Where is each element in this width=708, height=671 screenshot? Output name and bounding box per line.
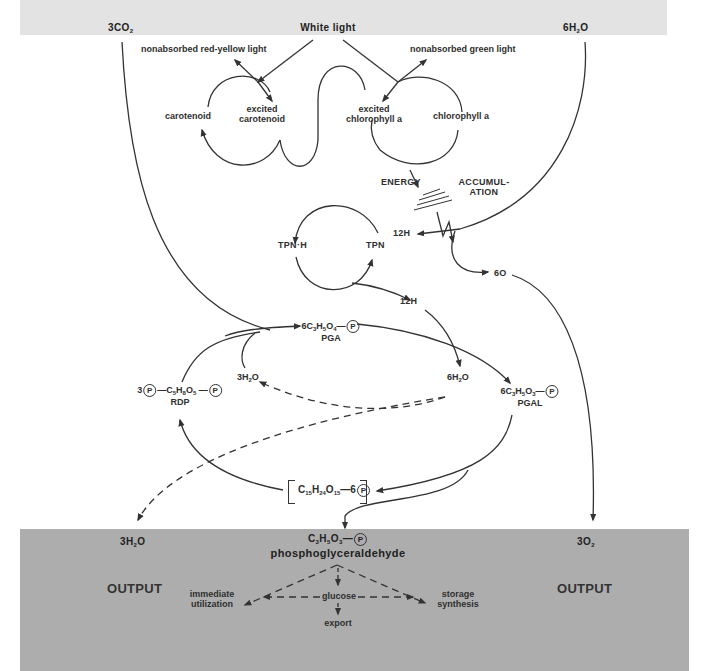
light-to-chlorophyll-line [343, 40, 398, 82]
hydrogen-in-label: 12H [393, 228, 410, 238]
phosphate-icon: P [357, 484, 370, 497]
product-name: phosphoglyceraldehyde [271, 547, 406, 560]
output-oxygen: 3O2 [577, 536, 595, 549]
energy-label: ENERGY [381, 177, 421, 187]
chlorophyll-cycle [398, 77, 462, 112]
nonabsorbed-red-yellow-label: nonabsorbed red-yellow light [141, 44, 267, 54]
water-flow-line [460, 42, 586, 229]
carotenoid-label: carotenoid [165, 111, 211, 121]
energy-lightning [437, 212, 453, 242]
water-out-right-label: 6H2O [447, 372, 469, 384]
glucose-label: glucose [322, 591, 356, 601]
excited-chlorophyll-label: excited chlorophyll a [346, 104, 402, 125]
oxygen-split-arrow [452, 231, 488, 272]
hydrogen-out-label: 12H [400, 296, 417, 306]
input-co2: 3CO2 [108, 22, 134, 35]
co2-flow-line [122, 42, 270, 330]
phosphate-icon: P [546, 385, 559, 398]
phosphate-icon: P [354, 533, 367, 546]
phosphate-icon: P [143, 384, 156, 397]
pgal-to-hexose-arrow [377, 415, 512, 491]
nonabsorbed-green-label: nonabsorbed green light [410, 44, 516, 54]
excited-carotenoid-label: excited carotenoid [239, 104, 285, 125]
tpn-h-label: TPN·H [278, 240, 307, 250]
input-water: 6H2O [563, 22, 589, 35]
hexose-phosphate-label: C15H24O15—6P [298, 484, 371, 497]
input-white-light: White light [300, 22, 356, 34]
product-formula: C3H5O3—P [308, 533, 368, 546]
export-label: export [324, 618, 352, 628]
green-out-arrow [398, 60, 426, 82]
rdp-label: 3P—C5H8O5 —P RDP [137, 384, 223, 407]
tpn-cycle [295, 206, 378, 243]
oxygen-6o-label: 6O [494, 268, 507, 278]
water-out-left-label: 3H2O [237, 372, 259, 384]
immediate-utilization-label: immediate utilization [190, 589, 235, 610]
bracket-left [288, 480, 295, 504]
tpn-label: TPN [366, 240, 385, 250]
water-release-left [242, 333, 255, 368]
chlorophyll-to-excited-arrow [383, 82, 398, 101]
storage-synthesis-label: storage synthesis [437, 589, 479, 610]
output-water: 3H2O [120, 536, 146, 549]
photosynthesis-diagram: 3CO2 White light 6H2O nonabsorbed red-ye… [0, 0, 708, 671]
accumulation-label: ACCUMUL- ATION [459, 177, 510, 198]
pgal-label: 6C3H5O3—P PGAL [500, 385, 559, 408]
output-label-left: OUTPUT [107, 582, 162, 597]
phosphate-icon: P [347, 320, 360, 333]
carotenoid-cycle [208, 76, 270, 107]
chlorophyll-label: chlorophyll a [433, 111, 489, 121]
water-dashed-return [260, 382, 445, 408]
phosphate-icon: P [209, 384, 222, 397]
hexose-to-rdp-arrow [180, 420, 283, 490]
pga-label: 6C3H5O4—P PGA [301, 320, 360, 343]
output-label-right: OUTPUT [557, 582, 612, 597]
pga-to-pgal-arrow [357, 324, 510, 383]
